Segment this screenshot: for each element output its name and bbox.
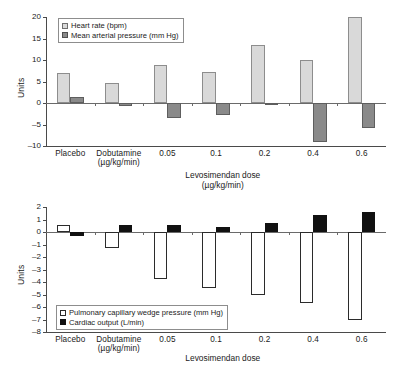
bar-pulmonary-capillary-wedge-pressure-0-4 [300,232,314,303]
x-axis-title-bottom: Levosimendan dose [163,353,283,363]
x-category-label-0-6: 0.6 [322,149,399,158]
bar-mean-arterial-pressure-0-4 [313,103,327,142]
y-tick-label: 0 [21,98,41,107]
y-tick [43,307,46,308]
zero-baseline [46,232,386,233]
y-tick-label: –3 [21,265,41,274]
y-tick [43,270,46,271]
legend-bottom: Pulmonary capillary wedge pressure (mm H… [56,305,228,330]
x-category-main: 0.1 [210,335,222,344]
x-category-main: 0.1 [210,149,222,158]
x-tick [337,232,338,235]
legend-item-heart-rate: Heart rate (bpm) [62,21,179,31]
legend-label: Mean arterial pressure (mm Hg) [71,31,179,41]
x-tick [143,232,144,235]
bar-cardiac-output-0-1 [216,227,230,232]
x-tick [240,103,241,106]
y-axis-line [46,17,47,146]
x-category-sub: (µg/kg/min) [79,344,159,353]
y-tick-label: –5 [21,120,41,129]
y-tick [43,320,46,321]
y-tick-label: 0 [21,227,41,236]
bar-heart-rate-0-1 [202,72,216,103]
y-tick-label: 5 [21,77,41,86]
bar-cardiac-output-0-4 [313,215,327,232]
y-tick-label: 2 [21,202,41,211]
x-category-main: 0.2 [259,149,271,158]
bar-pulmonary-capillary-wedge-pressure-0-1 [202,232,216,288]
y-tick-label: 15 [21,34,41,43]
x-category-label-0-6: 0.6 [322,335,399,344]
y-tick-label: 20 [21,12,41,21]
bar-heart-rate-0-4 [300,60,314,103]
bar-pulmonary-capillary-wedge-pressure-0-05 [154,232,168,279]
y-tick [43,220,46,221]
y-tick-label: –1 [21,240,41,249]
y-tick [43,295,46,296]
y-tick-label: –6 [21,302,41,311]
y-tick-label: –4 [21,277,41,286]
legend-swatch-mean-arterial-pressure-icon [62,32,68,38]
bar-mean-arterial-pressure-dobutamine [119,103,133,106]
x-category-sub: (µg/kg/min) [79,158,159,167]
y-tick [43,39,46,40]
x-axis-title-main-top: Levosimendan dose [185,170,260,180]
x-axis-title-top: Levosimendan dose (µg/kg/min) [163,170,283,190]
chart-panel-bottom: Units 210–1–2–3–4–5–6–7–8 Pulmonary capi… [0,190,399,375]
bar-cardiac-output-placebo [70,232,84,236]
y-tick [43,103,46,104]
bar-heart-rate-0-2 [251,45,265,103]
bar-pulmonary-capillary-wedge-pressure-0-2 [251,232,265,295]
x-axis-title-sub-top: (µg/kg/min) [163,180,283,190]
bar-cardiac-output-0-2 [265,223,279,232]
x-category-main: 0.05 [159,335,175,344]
x-category-main: 0.6 [356,149,368,158]
legend-label: Heart rate (bpm) [71,21,127,31]
x-tick [143,103,144,106]
x-category-main: 0.2 [259,335,271,344]
y-tick [43,282,46,283]
legend-swatch-pulmonary-capillary-wedge-pressure-icon [60,310,66,316]
bar-pulmonary-capillary-wedge-pressure-placebo [57,225,71,233]
x-tick [289,232,290,235]
bar-mean-arterial-pressure-0-1 [216,103,230,115]
bar-cardiac-output-dobutamine [119,225,133,232]
legend-label: Pulmonary capillary wedge pressure (mm H… [69,308,223,318]
y-tick [43,232,46,233]
y-tick-label: –2 [21,252,41,261]
x-category-main: 0.4 [307,149,319,158]
x-tick [289,103,290,106]
bar-mean-arterial-pressure-0-05 [167,103,181,118]
bar-pulmonary-capillary-wedge-pressure-dobutamine [105,232,119,248]
y-tick [43,332,46,333]
bar-heart-rate-0-6 [348,17,362,103]
x-axis-line [46,146,386,147]
x-tick [240,232,241,235]
y-tick-label: 1 [21,215,41,224]
legend-top: Heart rate (bpm)Mean arterial pressure (… [58,18,184,43]
x-tick [95,232,96,235]
legend-label: Cardiac output (L/min) [69,318,144,328]
legend-item-mean-arterial-pressure: Mean arterial pressure (mm Hg) [62,31,179,41]
bar-pulmonary-capillary-wedge-pressure-0-6 [348,232,362,320]
y-tick-label: –5 [21,290,41,299]
y-tick [43,82,46,83]
legend-swatch-cardiac-output-icon [60,319,66,325]
y-tick-label: 10 [21,55,41,64]
bar-mean-arterial-pressure-0-6 [362,103,376,128]
bar-heart-rate-dobutamine [105,83,119,103]
bar-mean-arterial-pressure-placebo [70,97,84,103]
y-tick [43,207,46,208]
y-tick [43,146,46,147]
figure-two-panel-bar-charts: Units 20151050–5–10 Heart rate (bpm)Mean… [0,0,399,375]
y-tick [43,60,46,61]
legend-swatch-heart-rate-icon [62,23,68,29]
chart-panel-top: Units 20151050–5–10 Heart rate (bpm)Mean… [0,0,399,190]
x-tick [337,103,338,106]
x-category-main: 0.4 [307,335,319,344]
legend-item-cardiac-output: Cardiac output (L/min) [60,318,223,328]
y-axis-line [46,207,47,332]
y-tick [43,125,46,126]
y-tick [43,17,46,18]
x-tick [95,103,96,106]
